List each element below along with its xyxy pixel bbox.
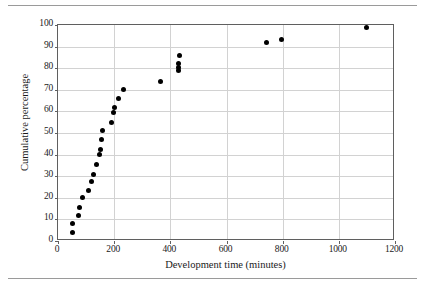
y-axis-tick-mark (55, 133, 58, 134)
y-tick-label: 90 (31, 41, 53, 51)
x-tick-label: 200 (93, 245, 133, 255)
data-point (111, 110, 116, 115)
y-axis-tick-mark (55, 219, 58, 220)
gridline-horizontal (58, 219, 393, 220)
gridline-vertical (227, 25, 228, 239)
data-point (279, 37, 284, 42)
y-axis-tick-labels: 0102030405060708090100 (29, 24, 53, 240)
data-point (70, 230, 75, 235)
y-tick-label: 70 (31, 84, 53, 94)
y-axis-tick-mark (55, 47, 58, 48)
y-tick-label: 50 (31, 127, 53, 137)
y-axis-tick-mark (55, 241, 58, 242)
data-point (77, 205, 82, 210)
y-tick-label: 10 (31, 213, 53, 223)
gridline-horizontal (58, 111, 393, 112)
x-tick-label: 1200 (374, 245, 414, 255)
x-tick-label: 0 (37, 245, 77, 255)
gridline-horizontal (58, 90, 393, 91)
gridline-horizontal (58, 133, 393, 134)
x-tick-label: 600 (206, 245, 246, 255)
data-point (112, 105, 117, 110)
figure-container: 0102030405060708090100 02004006008001000… (0, 0, 425, 291)
data-point (76, 213, 81, 218)
y-axis-tick-mark (55, 90, 58, 91)
data-point (80, 195, 85, 200)
y-tick-label: 0 (31, 235, 53, 245)
y-axis-tick-mark (55, 25, 58, 26)
gridline-horizontal (58, 198, 393, 199)
y-axis-tick-mark (55, 155, 58, 156)
gridline-vertical (283, 25, 284, 239)
data-point (86, 188, 91, 193)
y-axis-tick-mark (55, 68, 58, 69)
y-tick-label: 20 (31, 192, 53, 202)
y-axis-tick-mark (55, 176, 58, 177)
x-axis-title: Development time (minutes) (57, 259, 394, 270)
plot-area (57, 24, 394, 240)
y-tick-label: 40 (31, 149, 53, 159)
data-point (364, 25, 369, 30)
y-axis-tick-mark (55, 111, 58, 112)
gridline-horizontal (58, 176, 393, 177)
y-tick-label: 100 (31, 19, 53, 29)
y-axis-tick-mark (55, 198, 58, 199)
data-point (158, 79, 163, 84)
gridline-horizontal (58, 155, 393, 156)
x-tick-label: 400 (149, 245, 189, 255)
gridline-horizontal (58, 68, 393, 69)
data-point (89, 179, 94, 184)
data-point (97, 152, 102, 157)
x-tick-label: 1000 (318, 245, 358, 255)
bottom-horizontal-rule (8, 278, 417, 279)
data-point (99, 137, 104, 142)
top-horizontal-rule (8, 5, 417, 6)
y-tick-label: 60 (31, 105, 53, 115)
data-point (98, 147, 103, 152)
x-tick-label: 800 (262, 245, 302, 255)
data-point (109, 120, 114, 125)
gridline-vertical (114, 25, 115, 239)
y-tick-label: 80 (31, 62, 53, 72)
y-axis-title: Cumulative percentage (19, 53, 30, 193)
gridline-horizontal (58, 47, 393, 48)
data-point (94, 162, 99, 167)
data-point (70, 221, 75, 226)
gridline-vertical (170, 25, 171, 239)
data-point (121, 87, 126, 92)
gridline-vertical (339, 25, 340, 239)
data-point (177, 53, 182, 58)
x-axis-tick-labels: 020040060080010001200 (57, 245, 394, 259)
data-point (264, 40, 269, 45)
data-point (116, 96, 121, 101)
y-tick-label: 30 (31, 170, 53, 180)
